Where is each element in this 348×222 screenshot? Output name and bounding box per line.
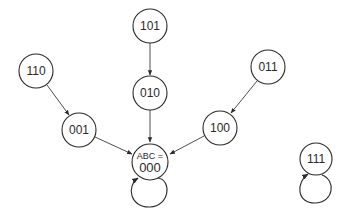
state-node-010: 010: [133, 76, 167, 110]
edge-001-to-000: [95, 137, 132, 154]
state-diagram: 101 010 110 011 001 100 ABC = 000 111: [0, 0, 348, 222]
state-node-011: 011: [251, 50, 285, 84]
state-node-110: 110: [19, 54, 53, 88]
state-label: 110: [26, 64, 45, 78]
state-label: 101: [140, 19, 160, 33]
state-node-001: 001: [62, 113, 96, 147]
self-loop-111: [300, 174, 331, 203]
state-label: 001: [69, 123, 89, 137]
state-node-100: 100: [203, 111, 237, 145]
edge-011-to-100: [231, 81, 257, 113]
edge-110-to-001: [47, 85, 69, 115]
state-label: 010: [140, 86, 160, 100]
edge-100-to-000: [170, 136, 204, 154]
state-node-111: 111: [300, 143, 332, 175]
state-node-101: 101: [133, 9, 167, 43]
state-label: 000: [139, 160, 161, 175]
state-label: 111: [307, 152, 326, 166]
state-label: 011: [258, 60, 277, 74]
state-label: 100: [210, 121, 230, 135]
state-node-000: ABC = 000: [132, 144, 168, 180]
self-loop-000: [131, 178, 167, 207]
